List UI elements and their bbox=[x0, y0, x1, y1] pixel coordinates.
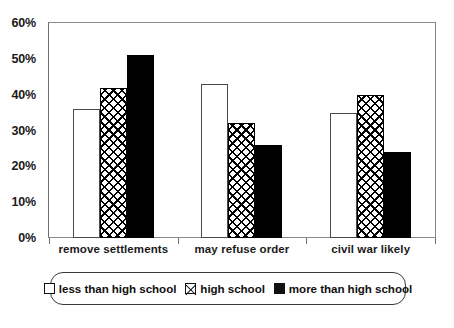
bar-chart: 0%10%20%30%40%50%60% remove settlementsm… bbox=[0, 0, 454, 328]
bar bbox=[201, 84, 228, 238]
legend-swatch-open-icon bbox=[44, 283, 55, 294]
bar bbox=[127, 55, 154, 238]
bar bbox=[228, 123, 255, 238]
legend-label: less than high school bbox=[59, 283, 176, 295]
legend-label: high school bbox=[200, 283, 265, 295]
legend-swatch-solid-icon bbox=[274, 283, 285, 294]
bar bbox=[100, 88, 127, 239]
x-category-label: remove settlements bbox=[49, 243, 178, 256]
legend-entry[interactable]: high school bbox=[185, 283, 265, 295]
x-category-label: may refuse order bbox=[178, 243, 307, 256]
chart-legend: less than high schoolhigh schoolmore tha… bbox=[50, 272, 406, 305]
bar bbox=[330, 113, 357, 238]
x-category-label: civil war likely bbox=[306, 243, 435, 256]
legend-entry[interactable]: more than high school bbox=[274, 283, 412, 295]
bar bbox=[255, 145, 282, 238]
bar bbox=[384, 152, 411, 238]
legend-swatch-hatch-icon bbox=[185, 283, 196, 294]
x-tick-mark bbox=[435, 238, 436, 244]
bar bbox=[73, 109, 100, 238]
bar bbox=[357, 95, 384, 238]
legend-label: more than high school bbox=[289, 283, 412, 295]
legend-entry[interactable]: less than high school bbox=[44, 283, 176, 295]
